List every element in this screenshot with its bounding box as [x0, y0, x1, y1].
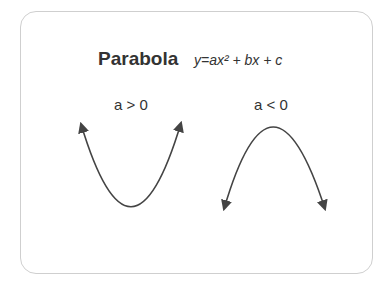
- downward-parabola: [224, 127, 325, 209]
- parabola-curves: [0, 0, 391, 289]
- upward-parabola: [81, 123, 181, 207]
